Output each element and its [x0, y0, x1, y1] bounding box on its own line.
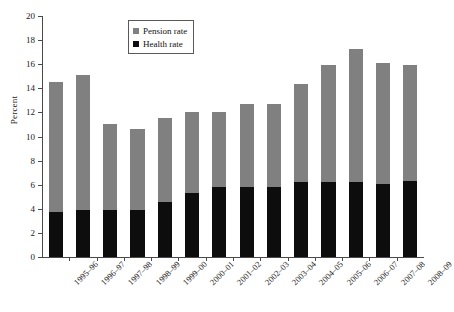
bar-segment-health — [76, 210, 90, 257]
bar-segment-pension — [294, 84, 308, 183]
legend-swatch-icon-health — [133, 41, 139, 47]
bar-segment-health — [321, 182, 335, 257]
bar-2003–04 — [267, 104, 281, 257]
legend-item-health-rate: Health rate — [133, 37, 187, 50]
x-tick-label: 2004–05 — [317, 259, 345, 287]
y-tick-label: 2 — [31, 228, 36, 238]
x-tick-label: 1999–00 — [180, 259, 208, 287]
bar-segment-health — [240, 187, 254, 257]
legend-label-pension: Pension rate — [143, 26, 187, 36]
x-tick-label: 1997–98 — [126, 259, 154, 287]
y-tick-label: 16 — [26, 59, 35, 69]
chart-legend: Pension rate Health rate — [128, 20, 194, 54]
x-tick-label: 1995–96 — [71, 259, 99, 287]
bar-segment-pension — [267, 104, 281, 187]
x-tick-label: 1996–97 — [99, 259, 127, 287]
bar-segment-health — [267, 187, 281, 257]
bar-2002–03 — [240, 104, 254, 257]
bar-segment-pension — [240, 104, 254, 187]
bar-2005–06 — [321, 65, 335, 257]
bar-segment-pension — [76, 75, 90, 210]
bar-1999–00 — [158, 118, 172, 257]
bar-segment-health — [294, 182, 308, 257]
y-tick-label: 0 — [31, 252, 36, 262]
x-tick-label: 2006–07 — [371, 259, 399, 287]
bar-segment-pension — [212, 112, 226, 187]
bar-segment-pension — [158, 118, 172, 201]
bar-segment-health — [212, 187, 226, 257]
bar-segment-pension — [403, 65, 417, 181]
bar-segment-health — [130, 210, 144, 257]
bar-segment-pension — [376, 63, 390, 184]
bar-2008–09 — [403, 65, 417, 257]
y-tick-label: 12 — [26, 107, 35, 117]
bar-segment-health — [49, 212, 63, 257]
y-tick-label: 20 — [26, 11, 35, 21]
y-tick — [38, 257, 42, 258]
y-tick-label: 14 — [26, 83, 35, 93]
bar-segment-health — [185, 193, 199, 257]
bar-2004–05 — [294, 83, 308, 257]
x-tick-label: 2002–03 — [262, 259, 290, 287]
y-tick-label: 10 — [26, 132, 35, 142]
bar-segment-pension — [349, 49, 363, 183]
x-tick-label: 2003–04 — [290, 259, 318, 287]
bar-segment-pension — [49, 82, 63, 212]
x-tick-label: 2007–08 — [399, 259, 427, 287]
y-tick-label: 6 — [31, 180, 36, 190]
legend-swatch-icon-pension — [133, 28, 139, 34]
x-tick-label: 2008–09 — [426, 259, 454, 287]
x-tick-label: 1998–99 — [153, 259, 181, 287]
legend-label-health: Health rate — [143, 39, 183, 49]
bar-segment-health — [349, 182, 363, 257]
legend-item-pension-rate: Pension rate — [133, 24, 187, 37]
bar-2007–08 — [376, 63, 390, 257]
bar-segment-pension — [130, 129, 144, 210]
x-tick-label: 2001–02 — [235, 259, 263, 287]
plot-area: 02468101214161820 — [42, 16, 424, 257]
y-tick-label: 4 — [31, 204, 36, 214]
bar-2001–02 — [212, 112, 226, 257]
x-tick-label: 2005–06 — [344, 259, 372, 287]
bar-segment-health — [403, 181, 417, 257]
bar-segment-pension — [321, 65, 335, 182]
bar-segment-health — [103, 210, 117, 257]
x-tick-label: 2000–01 — [208, 259, 236, 287]
y-axis-title: Percent — [9, 75, 19, 145]
bar-segment-health — [376, 184, 390, 258]
bar-segment-pension — [103, 124, 117, 210]
bar-group — [42, 16, 424, 257]
bar-1996–97 — [76, 75, 90, 257]
bar-1995–96 — [49, 82, 63, 257]
bar-2000–01 — [185, 112, 199, 257]
bar-segment-pension — [185, 112, 199, 193]
bar-1998–99 — [130, 129, 144, 257]
x-axis-labels: 1995–961996–971997–981998–991999–002000–… — [42, 259, 424, 312]
y-tick-label: 18 — [26, 35, 35, 45]
bar-segment-health — [158, 202, 172, 257]
bar-1997–98 — [103, 124, 117, 257]
bar-2006–07 — [349, 49, 363, 257]
y-tick-label: 8 — [31, 156, 36, 166]
